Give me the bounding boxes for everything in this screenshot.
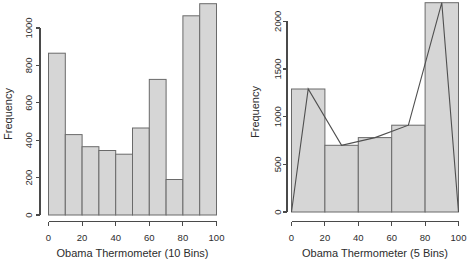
histogram-bar-60-80 [392, 125, 425, 212]
histogram-bar-20-40 [325, 145, 358, 212]
histogram-figure: 02004006008001000020406080100Obama Therm… [0, 0, 470, 269]
histogram-bar-30-40 [99, 151, 116, 216]
y-tick-label-500: 500 [272, 156, 283, 172]
x-tick-label-60: 60 [386, 232, 397, 243]
histogram-bar-80-100 [425, 3, 458, 212]
y-tick-label-600: 600 [23, 95, 34, 111]
histogram-bar-0-20 [292, 89, 325, 212]
y-axis-title: Frequency [2, 88, 14, 140]
histogram-bar-20-30 [82, 147, 99, 215]
x-tick-label-20: 20 [320, 232, 331, 243]
histogram-bar-50-60 [133, 128, 150, 215]
histogram-bar-70-80 [166, 180, 183, 216]
x-tick-label-80: 80 [420, 232, 431, 243]
histogram-bar-90-100 [200, 4, 217, 215]
x-tick-label-80: 80 [178, 232, 189, 243]
x-axis-title: Obama Thermometer (10 Bins) [56, 247, 208, 259]
y-tick-label-400: 400 [23, 132, 34, 148]
y-tick-label-1500: 1500 [272, 58, 283, 79]
histogram-bar-80-90 [183, 16, 200, 215]
x-tick-label-100: 100 [451, 232, 467, 243]
x-tick-label-40: 40 [353, 232, 364, 243]
y-tick-label-0: 0 [272, 209, 283, 214]
y-tick-label-200: 200 [23, 170, 34, 186]
x-tick-label-40: 40 [110, 232, 121, 243]
histogram-bar-60-70 [149, 79, 166, 215]
screenshot-root: { "figure": { "background_color": "#ffff… [0, 0, 470, 269]
histogram-bar-40-50 [116, 154, 133, 215]
y-tick-label-2000: 2000 [272, 11, 283, 32]
right-histogram-panel: 0500100015002000020406080100Obama Thermo… [249, 3, 466, 259]
y-tick-label-1000: 1000 [272, 106, 283, 127]
y-tick-label-800: 800 [23, 57, 34, 73]
histogram-bar-10-20 [65, 135, 82, 215]
y-axis-title: Frequency [249, 86, 261, 138]
histogram-bar-40-60 [358, 138, 391, 212]
x-tick-label-20: 20 [77, 232, 88, 243]
y-tick-label-1000: 1000 [23, 17, 34, 38]
x-tick-label-0: 0 [289, 232, 294, 243]
y-tick-label-0: 0 [23, 212, 34, 217]
x-tick-label-100: 100 [209, 232, 225, 243]
x-tick-label-60: 60 [144, 232, 155, 243]
x-tick-label-0: 0 [46, 232, 51, 243]
figure-canvas: 02004006008001000020406080100Obama Therm… [0, 0, 470, 269]
left-histogram-panel: 02004006008001000020406080100Obama Therm… [2, 4, 224, 259]
histogram-bar-0-10 [49, 53, 66, 215]
x-axis-title: Obama Thermometer (5 Bins) [302, 247, 448, 259]
